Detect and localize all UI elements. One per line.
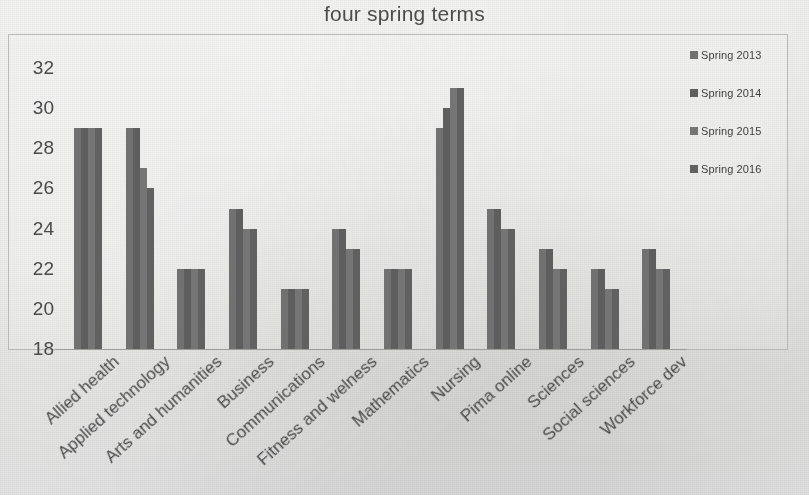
- bar-group: [217, 42, 269, 349]
- bar: [198, 269, 205, 349]
- page-title: four spring terms: [0, 2, 809, 26]
- bar: [450, 88, 457, 349]
- bar: [229, 209, 236, 350]
- legend-color-swatch-icon: [690, 165, 698, 173]
- bar: [649, 249, 656, 349]
- legend-label: Spring 2013: [701, 49, 761, 61]
- legend-item[interactable]: Spring 2013: [690, 36, 805, 74]
- bar: [656, 269, 663, 349]
- bar: [663, 269, 670, 349]
- bar-group: [320, 42, 372, 349]
- legend-item[interactable]: Spring 2015: [690, 112, 805, 150]
- bar: [191, 269, 198, 349]
- bar-group: [114, 42, 166, 349]
- chart-legend: Spring 2013Spring 2014Spring 2015Spring …: [690, 36, 805, 188]
- bar-group: [269, 42, 321, 349]
- bar: [598, 269, 605, 349]
- bar: [147, 188, 154, 349]
- bar-group: [165, 42, 217, 349]
- bar: [236, 209, 243, 350]
- bar: [591, 269, 598, 349]
- bar: [281, 289, 288, 349]
- x-axis-category-labels: Allied healthApplied technologyArts and …: [62, 352, 682, 492]
- bar: [642, 249, 649, 349]
- bar: [605, 289, 612, 349]
- bar: [494, 209, 501, 350]
- legend-color-swatch-icon: [690, 51, 698, 59]
- bar: [487, 209, 494, 350]
- legend-label: Spring 2016: [701, 163, 761, 175]
- bar: [553, 269, 560, 349]
- bar: [332, 229, 339, 349]
- legend-label: Spring 2015: [701, 125, 761, 137]
- bar: [546, 249, 553, 349]
- bar-group: [424, 42, 476, 349]
- bar: [457, 88, 464, 349]
- bar: [288, 289, 295, 349]
- bar: [612, 289, 619, 349]
- bar-group: [475, 42, 527, 349]
- bar: [126, 128, 133, 349]
- bar: [443, 108, 450, 349]
- bar: [184, 269, 191, 349]
- bar-groups: [62, 42, 682, 349]
- x-axis-baseline: [55, 349, 687, 350]
- bar: [95, 128, 102, 349]
- bar-chart-plot: [62, 42, 682, 349]
- bar: [391, 269, 398, 349]
- bar-group: [527, 42, 579, 349]
- bar: [302, 289, 309, 349]
- legend-item[interactable]: Spring 2014: [690, 74, 805, 112]
- bar: [81, 128, 88, 349]
- bar: [88, 128, 95, 349]
- bar-group: [62, 42, 114, 349]
- legend-label: Spring 2014: [701, 87, 761, 99]
- bar-group: [630, 42, 682, 349]
- bar: [250, 229, 257, 349]
- bar: [243, 229, 250, 349]
- legend-item[interactable]: Spring 2016: [690, 150, 805, 188]
- bar-group: [579, 42, 631, 349]
- bar: [405, 269, 412, 349]
- legend-color-swatch-icon: [690, 89, 698, 97]
- bar: [384, 269, 391, 349]
- bar: [539, 249, 546, 349]
- bar: [398, 269, 405, 349]
- bar: [560, 269, 567, 349]
- bar: [133, 128, 140, 349]
- legend-color-swatch-icon: [690, 127, 698, 135]
- bar: [177, 269, 184, 349]
- bar: [74, 128, 81, 349]
- bar: [508, 229, 515, 349]
- bar: [346, 249, 353, 349]
- bar: [353, 249, 360, 349]
- bar: [436, 128, 443, 349]
- bar: [501, 229, 508, 349]
- bar: [295, 289, 302, 349]
- bar: [339, 229, 346, 349]
- bar-group: [372, 42, 424, 349]
- bar: [140, 168, 147, 349]
